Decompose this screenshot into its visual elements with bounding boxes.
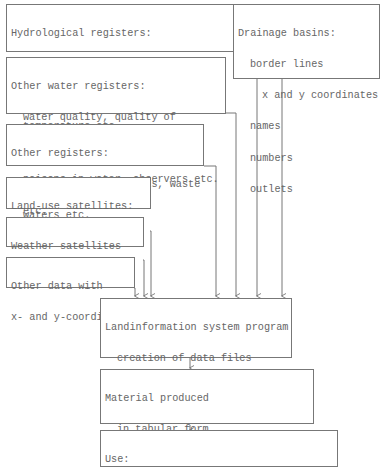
other-water-registers-box: Other water registers: water quality, qu… xyxy=(6,57,226,114)
box-title: Material produced xyxy=(105,394,309,404)
weather-satellites-box: Weather satellites NOAA xyxy=(6,217,144,247)
hydrological-registers-box: Hydrological registers: water level, run… xyxy=(6,4,271,52)
land-use-satellites-box: Land-use satellites: Landsat, SPOT xyxy=(6,177,151,209)
use-box: Use: research, planning, monitoring xyxy=(100,430,338,467)
landinformation-system-program-box: Landinformation system program creation … xyxy=(100,298,292,358)
box-title: Drainage basins: xyxy=(238,29,375,39)
box-line: numbers xyxy=(238,154,375,164)
box-line: border lines xyxy=(238,60,375,70)
box-line: names xyxy=(238,122,375,132)
box-title: Hydrological registers: xyxy=(11,29,266,39)
box-line: creation of data files xyxy=(105,354,287,364)
box-title: Other data with xyxy=(11,282,130,292)
box-line: x and y coordinates xyxy=(238,91,375,101)
other-registers-box: Other registers: digital terrain models,… xyxy=(6,124,204,166)
box-line: outlets xyxy=(238,185,375,195)
box-title: Use: xyxy=(105,455,333,465)
box-title: Landinformation system program xyxy=(105,323,287,333)
other-data-box: Other data with x- and y-coordinates xyxy=(6,257,135,288)
material-produced-box: Material produced in tabular form in gra… xyxy=(100,369,314,424)
box-title: Other water registers: xyxy=(11,82,221,92)
box-title: Weather satellites xyxy=(11,242,139,252)
box-title: Land-use satellites: xyxy=(11,202,146,212)
drainage-basins-box: Drainage basins: border lines x and y co… xyxy=(233,4,380,79)
box-title: Other registers: xyxy=(11,149,199,159)
box-line: water quality, quality of xyxy=(11,113,221,123)
